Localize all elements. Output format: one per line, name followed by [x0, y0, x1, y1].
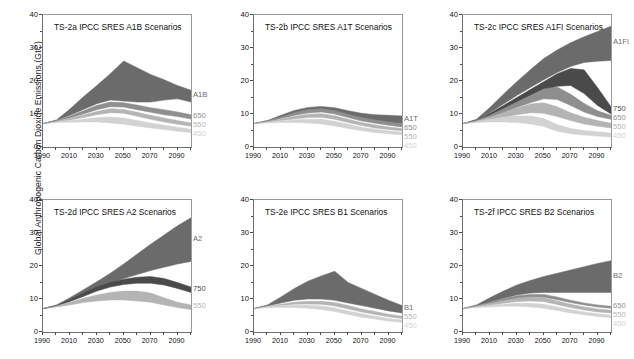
- x-tick-mark: [401, 147, 402, 150]
- y-tick-mark: [459, 199, 462, 200]
- y-tick-label: 40: [442, 195, 458, 204]
- series-label-a2: A2: [193, 234, 202, 243]
- plot-area-ts-2a: [42, 14, 192, 148]
- x-tick-label: 2090: [582, 336, 612, 345]
- y-tick-minor: [40, 97, 42, 98]
- x-tick-label: 1990: [447, 336, 477, 345]
- panel-title-ts-2c: TS-2c IPCC SRES A1FI Scenarios: [474, 22, 603, 32]
- x-tick-mark: [307, 332, 308, 335]
- x-tick-mark: [96, 332, 97, 335]
- x-tick-label: 1990: [447, 151, 477, 160]
- x-tick-label: 2010: [474, 336, 504, 345]
- y-tick-label: 30: [22, 228, 38, 237]
- x-tick-mark: [266, 332, 267, 335]
- x-tick-mark: [42, 147, 43, 150]
- x-tick-mark: [55, 332, 56, 335]
- y-tick-minor: [251, 31, 253, 32]
- x-tick-label: 2010: [54, 151, 84, 160]
- series-bands-ts-2d: [43, 200, 191, 332]
- x-tick-mark: [69, 332, 70, 335]
- y-tick-label: 40: [22, 10, 38, 19]
- x-tick-mark: [610, 147, 611, 150]
- y-tick-label: 30: [442, 43, 458, 52]
- y-tick-mark: [459, 113, 462, 114]
- y-tick-minor: [460, 315, 462, 316]
- y-tick-label: 40: [233, 10, 249, 19]
- series-label-650: 650: [404, 123, 417, 132]
- y-tick-label: 0: [442, 327, 458, 336]
- x-tick-mark: [361, 147, 362, 150]
- x-tick-label: 2070: [135, 151, 165, 160]
- x-tick-mark: [597, 147, 598, 150]
- x-tick-mark: [136, 147, 137, 150]
- x-tick-mark: [489, 332, 490, 335]
- y-tick-mark: [250, 113, 253, 114]
- series-bands-ts-2f: [463, 200, 611, 332]
- x-tick-mark: [190, 332, 191, 335]
- panel-ts-2a: TS-2a IPCC SRES A1B Scenarios01020304019…: [42, 14, 236, 174]
- series-label-650: 650: [613, 113, 626, 122]
- y-tick-minor: [460, 282, 462, 283]
- x-tick-mark: [109, 332, 110, 335]
- x-tick-label: 2030: [292, 151, 322, 160]
- y-tick-mark: [39, 199, 42, 200]
- y-tick-label: 20: [22, 76, 38, 85]
- x-tick-label: 2090: [373, 336, 403, 345]
- y-tick-mark: [39, 298, 42, 299]
- y-tick-minor: [40, 31, 42, 32]
- x-tick-mark: [556, 332, 557, 335]
- y-tick-mark: [39, 265, 42, 266]
- y-tick-label: 40: [233, 195, 249, 204]
- y-tick-minor: [460, 64, 462, 65]
- panel-title-ts-2b: TS-2b IPCC SRES A1T Scenarios: [265, 22, 392, 32]
- x-tick-mark: [475, 147, 476, 150]
- y-tick-label: 0: [233, 327, 249, 336]
- y-tick-label: 20: [442, 261, 458, 270]
- y-tick-mark: [459, 298, 462, 299]
- series-label-a1fi: A1FI: [613, 37, 629, 46]
- y-tick-minor: [460, 249, 462, 250]
- y-tick-label: 0: [22, 142, 38, 151]
- y-tick-label: 10: [442, 109, 458, 118]
- x-tick-mark: [516, 332, 517, 335]
- y-tick-label: 20: [442, 76, 458, 85]
- y-tick-minor: [460, 130, 462, 131]
- x-tick-mark: [177, 147, 178, 150]
- y-tick-minor: [460, 31, 462, 32]
- x-tick-label: 2070: [555, 151, 585, 160]
- x-tick-mark: [82, 332, 83, 335]
- x-tick-mark: [150, 147, 151, 150]
- x-tick-mark: [123, 147, 124, 150]
- y-tick-mark: [459, 47, 462, 48]
- x-tick-mark: [334, 332, 335, 335]
- x-tick-mark: [583, 332, 584, 335]
- y-tick-mark: [250, 232, 253, 233]
- x-tick-mark: [280, 332, 281, 335]
- y-tick-label: 20: [233, 76, 249, 85]
- y-tick-label: 10: [233, 294, 249, 303]
- x-tick-label: 1990: [238, 151, 268, 160]
- y-tick-mark: [459, 232, 462, 233]
- y-tick-label: 40: [442, 10, 458, 19]
- series-label-650: 650: [193, 111, 206, 120]
- y-tick-label: 30: [442, 228, 458, 237]
- plot-area-ts-2f: [462, 199, 612, 333]
- x-tick-label: 1990: [27, 336, 57, 345]
- x-tick-mark: [320, 332, 321, 335]
- y-tick-minor: [40, 249, 42, 250]
- y-tick-minor: [251, 97, 253, 98]
- y-tick-mark: [459, 14, 462, 15]
- x-tick-mark: [320, 147, 321, 150]
- series-label-450: 450: [404, 321, 417, 330]
- series-label-550: 550: [404, 132, 417, 141]
- y-tick-minor: [460, 216, 462, 217]
- x-tick-label: 1990: [238, 336, 268, 345]
- y-tick-minor: [251, 130, 253, 131]
- series-label-b1: B1: [404, 303, 413, 312]
- y-tick-label: 0: [22, 327, 38, 336]
- y-tick-label: 20: [22, 261, 38, 270]
- y-tick-mark: [39, 47, 42, 48]
- panel-ts-2c: TS-2c IPCC SRES A1FI Scenarios0102030401…: [462, 14, 634, 174]
- series-label-a1t: A1T: [404, 114, 418, 123]
